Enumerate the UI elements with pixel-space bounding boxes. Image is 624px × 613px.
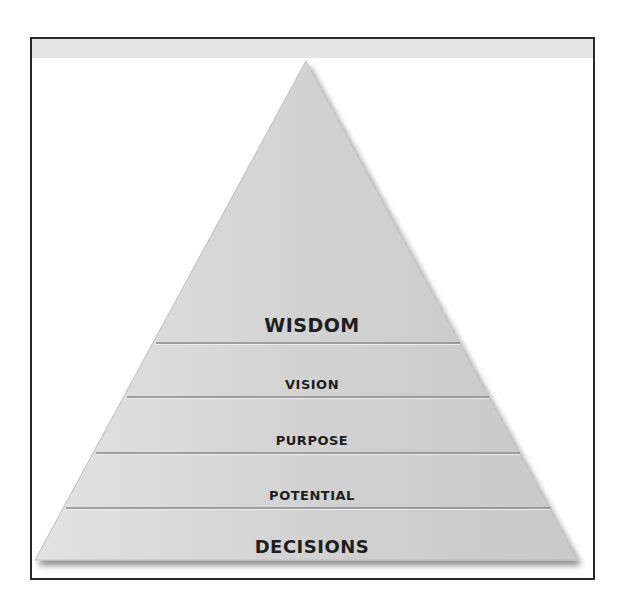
level-vision-label: VISION [0,377,624,392]
pyramid-body [35,61,578,560]
level-decisions-label: DECISIONS [0,536,624,557]
pyramid [0,0,624,613]
level-potential-label: POTENTIAL [0,488,624,503]
level-wisdom-label: WISDOM [0,314,624,336]
level-purpose-label: PURPOSE [0,433,624,448]
